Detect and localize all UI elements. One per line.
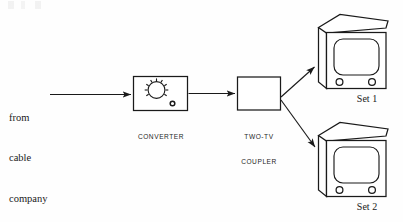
tv2-top-face — [319, 123, 389, 142]
tv1-knob-right — [369, 79, 376, 86]
coupler-label-line1: TWO-TV — [226, 133, 292, 141]
television-set-icon-2 — [319, 123, 389, 197]
television-set-icon-1 — [319, 15, 389, 89]
source-label-line3: company — [9, 192, 48, 205]
tv2-knob-right — [369, 187, 376, 194]
converter-indicator-dot — [170, 101, 175, 106]
tv1-screen — [334, 39, 379, 75]
converter-label-text: CONVERTER — [127, 133, 195, 141]
diagram-canvas — [0, 0, 403, 222]
set-2-label: Set 2 — [337, 201, 397, 214]
source-label-line2: cable — [9, 151, 48, 164]
source-label: from cable company — [9, 84, 48, 222]
source-label-line1: from — [9, 111, 48, 124]
tv2-left-side — [319, 136, 327, 197]
tv1-knob-left — [336, 79, 343, 86]
cable-tv-hookup-diagram: from cable company CONVERTER TWO-TV COUP… — [0, 0, 403, 222]
coupler-label-line2: COUPLER — [226, 158, 292, 166]
tv2-knob-left — [336, 187, 343, 194]
tv1-top-face — [319, 15, 389, 34]
arrow-coupler-to-set1 — [281, 67, 315, 97]
set-1-label: Set 1 — [337, 93, 397, 106]
tv2-screen — [334, 147, 379, 183]
coupler-label: TWO-TV COUPLER — [226, 116, 292, 184]
coupler-box — [238, 77, 281, 110]
converter-label: CONVERTER — [127, 116, 195, 158]
tv1-left-side — [319, 28, 327, 89]
